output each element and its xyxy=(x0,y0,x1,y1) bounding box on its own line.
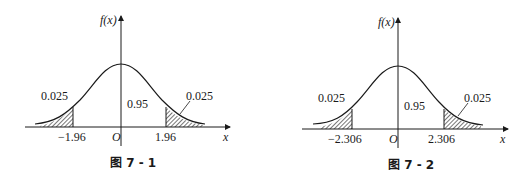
figure-7-1: f(x) x O −1.96 1.96 0.025 0.95 0.025 图 7… xyxy=(25,13,230,170)
figure-caption: 图 7 - 2 xyxy=(388,158,434,172)
figure-7-2: f(x) x O −2.306 2.306 0.025 0.95 0.025 图… xyxy=(302,15,508,172)
left-tail-probability: 0.025 xyxy=(318,91,345,105)
right-critical-value: 2.306 xyxy=(428,132,455,146)
figure-caption: 图 7 - 1 xyxy=(110,156,156,170)
y-axis-label: f(x) xyxy=(100,13,117,27)
left-critical-value: −1.96 xyxy=(58,130,86,144)
center-probability: 0.95 xyxy=(404,99,425,113)
right-tail-probability: 0.025 xyxy=(186,89,213,103)
origin-label: O xyxy=(389,132,398,146)
center-probability: 0.95 xyxy=(127,97,148,111)
left-critical-value: −2.306 xyxy=(328,132,362,146)
right-tail-shaded-region xyxy=(166,107,203,127)
right-critical-value: 1.96 xyxy=(155,130,176,144)
left-tail-probability: 0.025 xyxy=(41,89,68,103)
y-axis-label: f(x) xyxy=(378,15,395,29)
x-axis-label: x xyxy=(222,130,229,144)
right-tail-probability: 0.025 xyxy=(464,91,491,105)
x-axis-label: x xyxy=(499,132,506,146)
origin-label: O xyxy=(112,130,121,144)
